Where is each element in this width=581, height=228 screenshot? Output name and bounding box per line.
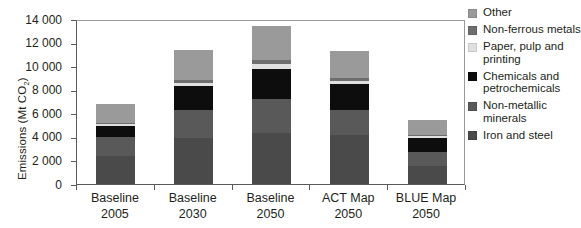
bar-segment[interactable] <box>252 26 291 60</box>
x-axis-category-labels: Baseline2005Baseline2030Baseline2050ACT … <box>76 190 465 228</box>
x-axis-category-label: ACT Map2050 <box>309 190 387 222</box>
legend-swatch-paper-pulp-and-printing <box>468 43 477 52</box>
bar-segment[interactable] <box>96 124 135 126</box>
legend-swatch-iron-and-steel <box>468 131 477 140</box>
legend-swatch-other <box>468 9 477 18</box>
y-axis-tick-label: 6 000 <box>6 108 62 120</box>
legend-item[interactable]: Paper, pulp and printing <box>468 40 581 65</box>
legend-swatch-non-metallic-minerals <box>468 102 477 111</box>
bar-segment[interactable] <box>96 104 135 123</box>
bar-segment[interactable] <box>174 86 213 110</box>
bar-group[interactable] <box>330 19 369 184</box>
y-axis-tick-label: 10 000 <box>6 61 62 73</box>
x-axis-label-line1: Baseline <box>247 191 295 205</box>
bar-segment[interactable] <box>330 51 369 78</box>
legend-label: Other <box>483 6 512 19</box>
y-axis-tick-label: 8 000 <box>6 84 62 96</box>
bar-segment[interactable] <box>252 64 291 68</box>
x-axis-category-label: Baseline2005 <box>76 190 154 222</box>
bar-segment[interactable] <box>330 78 369 81</box>
bar-group[interactable] <box>252 19 291 184</box>
bar-segment[interactable] <box>96 126 135 137</box>
bar-segment[interactable] <box>330 84 369 110</box>
legend-label: Paper, pulp and printing <box>483 40 581 65</box>
x-axis-tick-mark <box>465 185 466 190</box>
bar-segment[interactable] <box>408 135 447 137</box>
x-axis-label-line2: 2050 <box>387 206 465 222</box>
bar-segment[interactable] <box>174 83 213 86</box>
bars-container <box>77 21 464 184</box>
bar-segment[interactable] <box>96 123 135 125</box>
x-axis-category-label: Baseline2030 <box>154 190 232 222</box>
bar-segment[interactable] <box>408 138 447 152</box>
bar-segment[interactable] <box>252 69 291 100</box>
x-axis-label-line1: Baseline <box>169 191 217 205</box>
legend-item[interactable]: Iron and steel <box>468 129 581 142</box>
bar-segment[interactable] <box>408 166 447 184</box>
bar-segment[interactable] <box>96 137 135 156</box>
chart-legend: OtherNon-ferrous metalsPaper, pulp and p… <box>468 6 581 146</box>
y-axis-tick-label: 4 000 <box>6 131 62 143</box>
legend-label: Iron and steel <box>483 129 553 142</box>
y-axis-tick-labels: 14 00012 00010 0008 0006 0004 0002 0000 <box>0 0 76 228</box>
stacked-bar[interactable] <box>96 19 135 184</box>
legend-label: Chemicals and petrochemicals <box>483 70 581 95</box>
bar-segment[interactable] <box>174 80 213 83</box>
bar-segment[interactable] <box>252 60 291 64</box>
legend-item[interactable]: Non-metallic minerals <box>468 99 581 124</box>
bar-segment[interactable] <box>330 81 369 84</box>
bar-segment[interactable] <box>252 99 291 133</box>
bar-segment[interactable] <box>330 110 369 135</box>
bar-group[interactable] <box>96 19 135 184</box>
plot-area <box>76 20 465 185</box>
bar-segment[interactable] <box>408 136 447 138</box>
y-axis-tick-label: 14 000 <box>6 14 62 26</box>
y-axis-tick-label: 0 <box>6 179 62 191</box>
x-axis-label-line2: 2050 <box>309 206 387 222</box>
legend-item[interactable]: Non-ferrous metals <box>468 23 581 36</box>
x-axis-label-line2: 2030 <box>154 206 232 222</box>
legend-label: Non-ferrous metals <box>483 23 581 36</box>
bar-group[interactable] <box>174 19 213 184</box>
legend-item[interactable]: Chemicals and petrochemicals <box>468 70 581 95</box>
bar-segment[interactable] <box>330 135 369 185</box>
x-axis-label-line1: BLUE Map <box>396 191 456 205</box>
bar-segment[interactable] <box>252 133 291 184</box>
bar-segment[interactable] <box>174 138 213 184</box>
x-axis-label-line2: 2005 <box>76 206 154 222</box>
legend-swatch-chemicals-and-petrochemicals <box>468 72 477 81</box>
legend-label: Non-metallic minerals <box>483 99 581 124</box>
x-axis-label-line1: Baseline <box>91 191 139 205</box>
y-axis-tick-label: 12 000 <box>6 37 62 49</box>
x-axis-label-line1: ACT Map <box>322 191 375 205</box>
y-axis-tick-label: 2 000 <box>6 155 62 167</box>
bar-group[interactable] <box>408 19 447 184</box>
bar-segment[interactable] <box>174 110 213 138</box>
bar-segment[interactable] <box>96 156 135 184</box>
x-axis-label-line2: 2050 <box>232 206 310 222</box>
x-axis-category-label: Baseline2050 <box>232 190 310 222</box>
stacked-bar[interactable] <box>408 19 447 184</box>
cropped-title <box>76 0 465 2</box>
bar-segment[interactable] <box>174 50 213 81</box>
stacked-bar[interactable] <box>252 19 291 184</box>
stacked-bar[interactable] <box>330 19 369 184</box>
x-axis-category-label: BLUE Map2050 <box>387 190 465 222</box>
chart-figure: Emissions (Mt CO2) 14 00012 00010 0008 0… <box>0 0 581 228</box>
bar-segment[interactable] <box>408 152 447 166</box>
bar-segment[interactable] <box>408 120 447 134</box>
stacked-bar[interactable] <box>174 19 213 184</box>
legend-swatch-non-ferrous-metals <box>468 26 477 35</box>
legend-item[interactable]: Other <box>468 6 581 19</box>
